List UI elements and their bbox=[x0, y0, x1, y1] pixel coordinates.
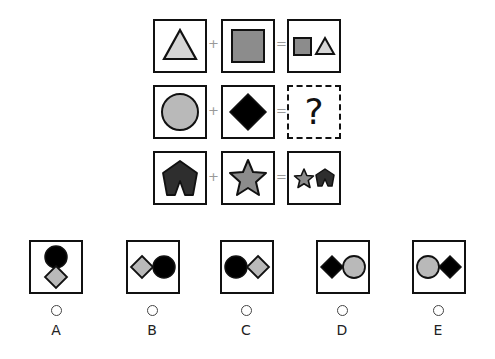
equals-sign: = bbox=[276, 104, 287, 117]
diamond-then-circle-icon bbox=[318, 242, 368, 292]
option-c-radio[interactable] bbox=[241, 305, 252, 316]
option-d-label: D bbox=[332, 322, 352, 338]
option-e-radio[interactable] bbox=[433, 305, 444, 316]
option-d-box[interactable] bbox=[316, 240, 370, 294]
triangle-icon bbox=[155, 21, 205, 71]
option-e-label: E bbox=[428, 322, 448, 338]
row1-result-box bbox=[287, 19, 341, 73]
row1-operand1-box bbox=[153, 19, 207, 73]
option-b-label: B bbox=[142, 322, 162, 338]
plus-sign: + bbox=[208, 170, 219, 183]
square-and-triangle-icon bbox=[289, 21, 339, 71]
circle-then-diamond-icon bbox=[222, 242, 272, 292]
option-e-box[interactable] bbox=[412, 240, 466, 294]
notched-pentagon-icon bbox=[155, 153, 205, 203]
row3-operand2-box bbox=[221, 151, 275, 205]
circle-above-diamond-icon bbox=[31, 242, 81, 292]
row3-result-box bbox=[287, 151, 341, 205]
plus-sign: + bbox=[208, 37, 219, 50]
option-a-radio[interactable] bbox=[51, 305, 62, 316]
plus-sign: + bbox=[208, 104, 219, 117]
row2-operand2-box bbox=[221, 85, 275, 139]
option-d-radio[interactable] bbox=[337, 305, 348, 316]
diamond-icon bbox=[223, 87, 273, 137]
equals-sign: = bbox=[276, 170, 287, 183]
row2-operand1-box bbox=[153, 85, 207, 139]
row2-result-unknown-box: ? bbox=[287, 85, 341, 139]
option-c-box[interactable] bbox=[220, 240, 274, 294]
question-mark: ? bbox=[289, 87, 339, 137]
diamond-then-circle-icon bbox=[128, 242, 178, 292]
circle-then-diamond-icon bbox=[414, 242, 464, 292]
row1-operand2-box bbox=[221, 19, 275, 73]
option-b-box[interactable] bbox=[126, 240, 180, 294]
option-c-label: C bbox=[236, 322, 256, 338]
row3-operand1-box bbox=[153, 151, 207, 205]
equals-sign: = bbox=[276, 37, 287, 50]
star-icon bbox=[223, 153, 273, 203]
option-a-label: A bbox=[46, 322, 66, 338]
star-and-notched-pentagon-icon bbox=[289, 153, 339, 203]
square-icon bbox=[223, 21, 273, 71]
option-a-box[interactable] bbox=[29, 240, 83, 294]
circle-icon bbox=[155, 87, 205, 137]
option-b-radio[interactable] bbox=[147, 305, 158, 316]
